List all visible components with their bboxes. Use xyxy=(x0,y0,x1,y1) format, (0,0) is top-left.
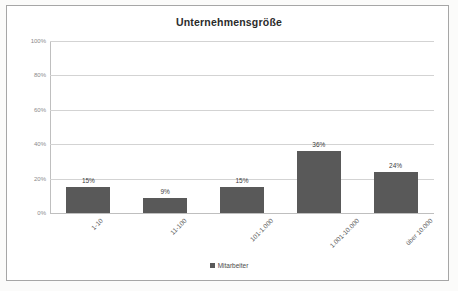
bar-value-label: 15% xyxy=(235,177,248,184)
y-tick-label-20: 20% xyxy=(6,176,46,182)
plot-area: 15%9%15%36%24% xyxy=(50,41,434,213)
bar[interactable] xyxy=(143,198,187,213)
legend-label-mitarbeiter: Mitarbeiter xyxy=(218,262,249,269)
bar[interactable] xyxy=(297,151,341,213)
bar-slot: 36% xyxy=(280,41,357,213)
chart-title: Unternehmensgröße xyxy=(0,16,458,28)
bar-slot: 15% xyxy=(204,41,281,213)
chart-legend: Mitarbeiter xyxy=(0,262,458,269)
legend-swatch-mitarbeiter xyxy=(210,263,215,268)
bar-value-label: 9% xyxy=(160,188,169,195)
y-axis-tick-labels: 0%20%40%60%80%100% xyxy=(0,41,46,213)
y-tick-label-80: 80% xyxy=(6,72,46,78)
bar-slot: 24% xyxy=(357,41,434,213)
bar-slot: 9% xyxy=(127,41,204,213)
gridline-0 xyxy=(50,213,434,214)
bar[interactable] xyxy=(66,187,110,213)
bar-value-label: 24% xyxy=(389,162,402,169)
y-tick-label-40: 40% xyxy=(6,141,46,147)
chart-page: Unternehmensgröße 0%20%40%60%80%100% 15%… xyxy=(0,0,458,291)
y-tick-label-100: 100% xyxy=(6,38,46,44)
bar-value-label: 15% xyxy=(82,177,95,184)
bar[interactable] xyxy=(220,187,264,213)
bar[interactable] xyxy=(374,172,418,213)
bar-slot: 15% xyxy=(50,41,127,213)
y-tick-label-0: 0% xyxy=(6,210,46,216)
bar-value-label: 36% xyxy=(312,141,325,148)
y-tick-label-60: 60% xyxy=(6,107,46,113)
